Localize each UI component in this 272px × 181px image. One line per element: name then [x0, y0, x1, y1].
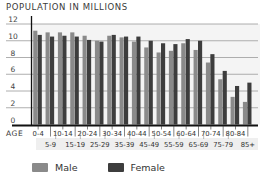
x-tick-label: 55-59	[164, 141, 184, 149]
x-tick-label: 15-19	[65, 141, 85, 149]
bar-male-0-4	[33, 31, 37, 125]
bar-male-60-64	[181, 43, 185, 124]
legend-label-male: Male	[55, 162, 78, 173]
y-tick-label: 2	[11, 99, 16, 108]
bar-male-10-14	[58, 32, 62, 124]
bar-female-35-39	[124, 37, 128, 125]
y-tick-label: 8	[11, 49, 16, 58]
bar-female-65-69	[198, 41, 202, 125]
bar-male-35-39	[120, 37, 124, 124]
bar-female-50-54	[161, 43, 165, 124]
x-tick-label: 85+	[241, 141, 255, 149]
bar-female-5-9	[50, 37, 54, 125]
x-tick-label: 45-49	[139, 141, 159, 149]
bar-male-75-79	[218, 79, 222, 124]
bar-female-55-59	[173, 44, 177, 124]
bar-male-40-44	[132, 42, 136, 125]
bar-female-10-14	[62, 36, 66, 125]
bar-female-20-24	[87, 40, 91, 125]
y-tick-label: 4	[11, 82, 16, 91]
x-tick-label: 0-4	[33, 130, 44, 138]
x-axis-labels: AGE0-45-910-1415-1920-2425-2930-3435-394…	[6, 126, 258, 151]
x-tick-label: 35-39	[115, 141, 135, 149]
legend-label-female: Female	[131, 162, 165, 173]
female-swatch	[108, 163, 124, 172]
bar-male-30-34	[107, 36, 111, 125]
legend-item-female: Female	[108, 162, 165, 173]
bar-male-50-54	[157, 52, 161, 124]
male-swatch	[32, 163, 48, 172]
bar-female-75-79	[223, 71, 227, 125]
bar-female-60-64	[186, 39, 190, 124]
x-tick-label: 65-69	[189, 141, 209, 149]
bar-female-30-34	[112, 35, 116, 125]
x-tick-label: 25-29	[90, 141, 110, 149]
bar-male-20-24	[83, 36, 87, 125]
bar-male-85+	[243, 102, 247, 125]
bar-female-25-29	[99, 42, 103, 125]
x-axis-title: AGE	[6, 129, 23, 138]
y-tick-label: 12	[8, 15, 18, 24]
bar-female-80-84	[235, 86, 239, 125]
bar-chart: 024681012 AGE0-45-910-1415-1920-2425-293…	[0, 0, 272, 181]
legend: Male Female	[32, 162, 195, 173]
bar-male-65-69	[194, 50, 198, 125]
legend-item-male: Male	[32, 162, 78, 173]
bar-female-85+	[247, 83, 251, 125]
bar-female-45-49	[149, 41, 153, 125]
bar-male-25-29	[95, 41, 99, 125]
y-tick-label: 0	[11, 116, 16, 125]
bar-male-15-19	[70, 32, 74, 124]
y-tick-label: 10	[8, 32, 18, 41]
x-tick-label: 5-9	[45, 141, 56, 149]
y-tick-label: 6	[11, 65, 16, 74]
bar-male-45-49	[144, 47, 148, 124]
bar-male-5-9	[46, 32, 50, 124]
bar-male-70-74	[206, 63, 210, 125]
bar-female-70-74	[210, 54, 214, 124]
bar-female-0-4	[38, 35, 42, 125]
x-tick-label: 75-79	[213, 141, 233, 149]
bar-female-40-44	[136, 37, 140, 125]
bar-female-15-19	[75, 37, 79, 125]
bar-male-55-59	[169, 51, 173, 125]
bar-male-80-84	[231, 97, 235, 125]
